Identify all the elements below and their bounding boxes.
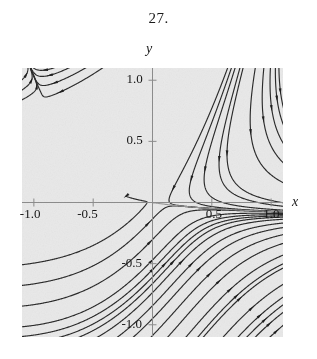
y-tick-label-neg05: -0.5 xyxy=(122,255,143,271)
y-axis-label: y xyxy=(146,41,152,57)
x-tick-label-neg05: -0.5 xyxy=(77,206,98,222)
problem-number: 27. xyxy=(0,10,317,27)
y-tick-label-pos1: 1.0 xyxy=(127,71,143,87)
y-tick-label-pos05: 0.5 xyxy=(127,132,143,148)
x-axis-label: x xyxy=(292,194,298,210)
x-tick-label-pos05: 0.5 xyxy=(206,206,222,222)
x-tick-label-pos1: 1.0 xyxy=(263,206,279,222)
y-tick-label-neg1: -1.0 xyxy=(122,316,143,332)
phase-portrait-figure: 27. y x -1.0 -0.5 0.5 1.0 1.0 0.5 -0.5 -… xyxy=(0,0,317,359)
axis-layer xyxy=(22,68,283,337)
x-tick-label-neg1: -1.0 xyxy=(20,206,41,222)
plot-area xyxy=(22,68,283,337)
